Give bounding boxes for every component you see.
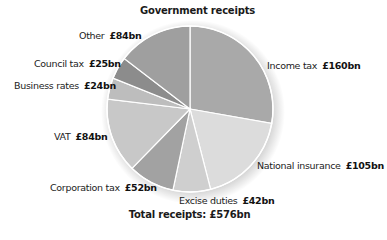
label-business-rates: Business rates£24bn [14, 80, 116, 91]
label-corporation-tax: Corporation tax£52bn [50, 182, 157, 193]
pie-slices [107, 26, 273, 192]
pie-slice-income-tax [190, 26, 273, 123]
label-income-tax: Income tax£160bn [267, 60, 360, 71]
label-national-insurance: National insurance£105bn [257, 160, 384, 171]
label-council-tax: Council tax£25bn [34, 58, 121, 69]
label-vat: VAT£84bn [54, 131, 107, 142]
label-other: Other£84bn [79, 30, 141, 41]
total-receipts: Total receipts: £576bn [0, 209, 383, 220]
label-excise-duties: Excise duties£42bn [179, 195, 274, 206]
